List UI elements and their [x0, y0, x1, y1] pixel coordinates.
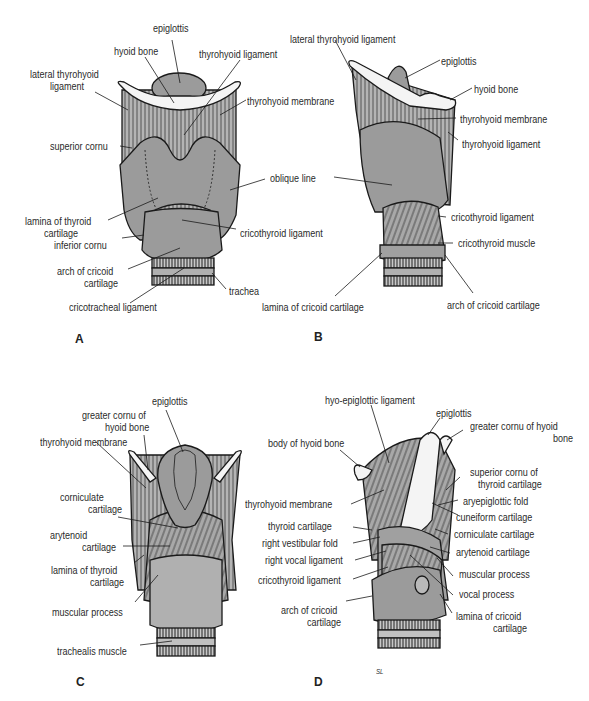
label-d-vocal-process: vocal process	[459, 588, 514, 600]
label-d-body-hyoid: body of hyoid bone	[268, 437, 344, 449]
label-c-thyrohyoid-membrane: thyrohyoid membrane	[40, 436, 127, 448]
label-d-thyroid-cartilage: thyroid cartilage	[268, 520, 332, 532]
panel-letter-c: C	[76, 675, 85, 689]
label-d-superior-cornu-line1: superior cornu of	[470, 466, 538, 478]
label-b-arch-cricoid: arch of cricoid cartilage	[447, 299, 540, 311]
panel-d-drawing	[354, 433, 455, 649]
label-a-cricotracheal-ligament: cricotracheal ligament	[69, 301, 157, 313]
label-b-hyoid-bone: hyoid bone	[474, 83, 518, 95]
panel-letter-b: B	[314, 330, 323, 344]
label-d-muscular-process: muscular process	[459, 568, 530, 580]
label-d-thyrohyoid-membrane: thyrohyoid membrane	[245, 498, 332, 510]
label-c-corniculate-line2: cartilage	[88, 503, 122, 515]
label-d-arch-cricoid-line2: cartilage	[307, 616, 341, 628]
label-a-thyrohyoid-ligament: thyrohyoid ligament	[199, 48, 277, 60]
label-a-hyoid-bone: hyoid bone	[114, 45, 158, 57]
label-b-thyrohyoid-ligament: thyrohyoid ligament	[462, 138, 540, 150]
label-d-arch-cricoid-line1: arch of cricoid	[281, 604, 337, 616]
label-d-superior-cornu-line2: thyroid cartilage	[478, 478, 542, 490]
label-a-superior-cornu: superior cornu	[50, 140, 108, 152]
label-d-arytenoid-cartilage: arytenoid cartilage	[456, 546, 530, 558]
label-c-epiglottis: epiglottis	[152, 395, 188, 407]
label-d-cricothyroid-ligament: cricothyroid ligament	[258, 574, 341, 586]
panel-letter-a: A	[75, 332, 84, 346]
label-c-corniculate-line1: corniculate	[60, 491, 104, 503]
label-a-lateral-thyrohyoid-ligament-line2: ligament	[50, 80, 84, 92]
label-c-arytenoid-line1: arytenoid	[50, 529, 87, 541]
label-b-thyrohyoid-membrane: thyrohyoid membrane	[460, 113, 547, 125]
label-a-epiglottis: epiglottis	[153, 22, 189, 34]
label-a-arch-cricoid-line1: arch of cricoid	[57, 265, 113, 277]
label-d-greater-cornu-line2: bone	[553, 432, 573, 444]
label-a-trachea: trachea	[229, 285, 259, 297]
artist-signature: SL	[376, 666, 383, 678]
label-d-greater-cornu-line1: greater cornu of hyoid	[470, 420, 558, 432]
label-d-hyo-epiglottic-ligament: hyo-epiglottic ligament	[325, 394, 415, 406]
label-a-arch-cricoid-line2: cartilage	[84, 277, 118, 289]
label-c-greater-cornu-line1: greater cornu of	[82, 409, 146, 421]
label-a-cricothyroid-ligament: cricothyroid ligament	[240, 227, 323, 239]
label-a-lamina-thyroid-line2: cartilage	[44, 227, 78, 239]
label-d-right-vocal-ligament: right vocal ligament	[265, 554, 343, 566]
label-d-cuneiform-cartilage: cuneiform cartilage	[456, 511, 532, 523]
label-b-lateral-thyrohyoid-ligament: lateral thyrohyoid ligament	[290, 33, 395, 45]
label-b-epiglottis: epiglottis	[441, 55, 477, 67]
label-c-trachealis-muscle: trachealis muscle	[57, 645, 127, 657]
label-b-cricothyroid-muscle: cricothyroid muscle	[458, 237, 535, 249]
label-c-muscular-process: muscular process	[52, 606, 123, 618]
label-a-lateral-thyrohyoid-ligament-line1: lateral thyrohyoid	[30, 68, 99, 80]
label-d-aryepiglottic-fold: aryepiglottic fold	[463, 495, 528, 507]
label-c-arytenoid-line2: cartilage	[82, 541, 116, 553]
label-b-lamina-cricoid: lamina of cricoid cartilage	[262, 301, 364, 313]
label-d-epiglottis: epiglottis	[436, 407, 472, 419]
label-a-oblique-line: oblique line	[270, 172, 316, 184]
label-d-right-vestibular-fold: right vestibular fold	[262, 537, 338, 549]
label-d-lamina-cricoid-line1: lamina of cricoid	[456, 610, 521, 622]
label-c-greater-cornu-line2: hyoid bone	[105, 421, 149, 433]
label-a-inferior-cornu: inferior cornu	[54, 239, 107, 251]
label-a-thyrohyoid-membrane: thyrohyoid membrane	[247, 95, 334, 107]
label-d-lamina-cricoid-line2: cartilage	[493, 622, 527, 634]
label-c-lamina-thyroid-line2: cartilage	[90, 576, 124, 588]
label-d-corniculate-cartilage: corniculate cartilage	[454, 528, 534, 540]
label-a-lamina-thyroid-line1: lamina of thyroid	[25, 215, 91, 227]
label-b-cricothyroid-ligament: cricothyroid ligament	[451, 211, 534, 223]
panel-c-drawing	[129, 445, 242, 656]
label-c-lamina-thyroid-line1: lamina of thyroid	[51, 564, 117, 576]
panel-a-drawing	[118, 73, 240, 285]
panel-b-drawing	[349, 61, 456, 286]
panel-letter-d: D	[314, 675, 323, 689]
